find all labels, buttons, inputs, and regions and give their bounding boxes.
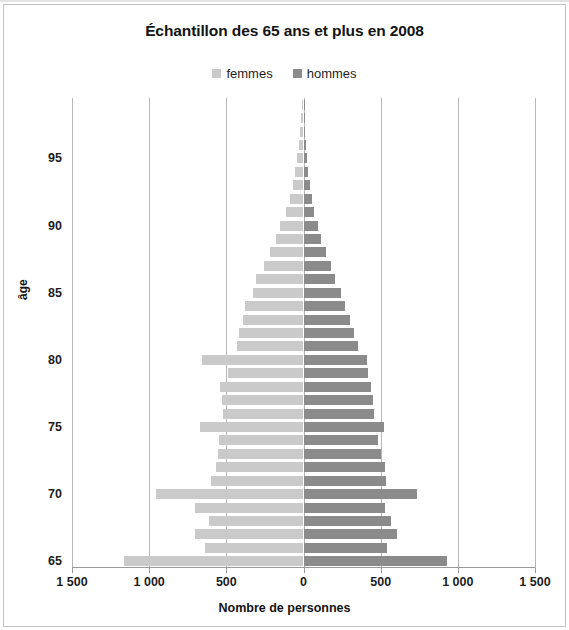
bar-hommes-99[interactable] — [304, 100, 305, 110]
bar-hommes-79[interactable] — [304, 368, 369, 378]
bar-femmes-76[interactable] — [223, 409, 303, 419]
bar-row — [72, 167, 535, 177]
bar-hommes-65[interactable] — [304, 556, 448, 566]
bar-femmes-70[interactable] — [156, 489, 303, 499]
bar-row — [72, 543, 535, 553]
y-axis-labels: 65707580859095 — [18, 98, 62, 568]
legend-entry-hommes[interactable]: hommes — [293, 66, 357, 81]
bar-hommes-85[interactable] — [304, 288, 341, 298]
y-tick-label: 85 — [48, 286, 62, 300]
bar-hommes-91[interactable] — [304, 207, 315, 217]
bar-hommes-94[interactable] — [304, 167, 309, 177]
bar-hommes-82[interactable] — [304, 328, 355, 338]
bar-row — [72, 301, 535, 311]
gridline — [535, 98, 536, 568]
bar-femmes-69[interactable] — [195, 503, 303, 513]
bar-hommes-95[interactable] — [304, 153, 307, 163]
bar-femmes-73[interactable] — [218, 449, 304, 459]
bar-femmes-82[interactable] — [239, 328, 304, 338]
bar-hommes-66[interactable] — [304, 543, 387, 553]
x-tick-label: 0 — [300, 575, 307, 589]
bar-hommes-71[interactable] — [304, 476, 387, 486]
bar-hommes-90[interactable] — [304, 221, 319, 231]
bar-row — [72, 556, 535, 566]
bar-hommes-78[interactable] — [304, 382, 372, 392]
bar-row — [72, 355, 535, 365]
bar-femmes-94[interactable] — [295, 167, 303, 177]
bar-femmes-87[interactable] — [264, 261, 303, 271]
bar-femmes-72[interactable] — [216, 462, 303, 472]
bar-femmes-67[interactable] — [195, 529, 303, 539]
bar-hommes-86[interactable] — [304, 274, 336, 284]
bar-row — [72, 234, 535, 244]
bar-femmes-92[interactable] — [290, 194, 304, 204]
bar-row — [72, 221, 535, 231]
bar-row — [72, 409, 535, 419]
x-tick-label: 500 — [370, 575, 391, 589]
bar-hommes-84[interactable] — [304, 301, 346, 311]
bar-hommes-80[interactable] — [304, 355, 367, 365]
bar-hommes-68[interactable] — [304, 516, 391, 526]
bar-row — [72, 100, 535, 110]
bar-hommes-70[interactable] — [304, 489, 417, 499]
bar-hommes-77[interactable] — [304, 395, 373, 405]
y-tick-label: 95 — [48, 151, 62, 165]
bar-row — [72, 529, 535, 539]
bar-femmes-79[interactable] — [228, 368, 304, 378]
bar-hommes-96[interactable] — [304, 140, 306, 150]
bar-femmes-88[interactable] — [270, 247, 303, 257]
x-tick — [72, 568, 73, 573]
bar-hommes-76[interactable] — [304, 409, 374, 419]
bar-row — [72, 435, 535, 445]
bar-femmes-78[interactable] — [220, 382, 303, 392]
bar-hommes-74[interactable] — [304, 435, 378, 445]
x-tick-label: 500 — [216, 575, 237, 589]
bar-femmes-75[interactable] — [200, 422, 303, 432]
bar-row — [72, 395, 535, 405]
bar-hommes-93[interactable] — [304, 180, 310, 190]
bar-femmes-83[interactable] — [243, 315, 303, 325]
bar-femmes-65[interactable] — [124, 556, 304, 566]
bar-femmes-90[interactable] — [280, 221, 303, 231]
bar-hommes-98[interactable] — [304, 113, 305, 123]
bar-row — [72, 516, 535, 526]
bar-femmes-89[interactable] — [276, 234, 303, 244]
bar-hommes-67[interactable] — [304, 529, 397, 539]
bar-hommes-83[interactable] — [304, 315, 350, 325]
bar-row — [72, 476, 535, 486]
bar-hommes-97[interactable] — [304, 127, 306, 137]
bar-femmes-84[interactable] — [245, 301, 304, 311]
x-tick-label: 1 000 — [442, 575, 473, 589]
bar-femmes-68[interactable] — [209, 516, 303, 526]
y-tick-label: 75 — [48, 420, 62, 434]
bar-hommes-87[interactable] — [304, 261, 332, 271]
bar-femmes-77[interactable] — [222, 395, 303, 405]
bar-hommes-89[interactable] — [304, 234, 322, 244]
bar-femmes-86[interactable] — [256, 274, 303, 284]
bar-femmes-80[interactable] — [202, 355, 303, 365]
bar-hommes-88[interactable] — [304, 247, 326, 257]
bar-row — [72, 261, 535, 271]
bar-row — [72, 180, 535, 190]
legend-entry-femmes[interactable]: femmes — [212, 66, 272, 81]
bar-row — [72, 113, 535, 123]
bar-row — [72, 140, 535, 150]
bar-femmes-81[interactable] — [237, 341, 303, 351]
bar-femmes-91[interactable] — [286, 207, 304, 217]
bar-femmes-74[interactable] — [219, 435, 304, 445]
bar-row — [72, 422, 535, 432]
bar-hommes-92[interactable] — [304, 194, 312, 204]
x-tick — [535, 568, 536, 573]
bar-hommes-72[interactable] — [304, 462, 385, 472]
bar-hommes-75[interactable] — [304, 422, 384, 432]
bar-femmes-93[interactable] — [293, 180, 304, 190]
bar-femmes-85[interactable] — [253, 288, 304, 298]
bar-row — [72, 449, 535, 459]
bar-femmes-71[interactable] — [211, 476, 304, 486]
bar-hommes-69[interactable] — [304, 503, 386, 513]
bar-hommes-81[interactable] — [304, 341, 358, 351]
bar-femmes-66[interactable] — [205, 543, 304, 553]
bar-hommes-73[interactable] — [304, 449, 381, 459]
x-tick — [304, 568, 305, 573]
bar-row — [72, 382, 535, 392]
